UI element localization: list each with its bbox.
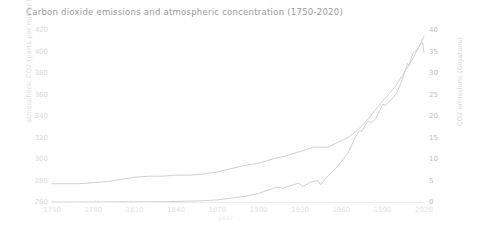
x-axis-tick: 1870 xyxy=(208,206,226,214)
line-co2-concentration xyxy=(52,36,424,183)
y-axis-left-tick: 340 xyxy=(35,112,48,120)
y-axis-left-tick: 280 xyxy=(35,177,48,185)
y-axis-left-tick: 380 xyxy=(35,69,48,77)
chart-title: Carbon dioxide emissions and atmospheric… xyxy=(26,7,343,17)
line-co2-emissions xyxy=(52,42,424,201)
chart-figure: Carbon dioxide emissions and atmospheric… xyxy=(0,0,480,238)
y-axis-right-tick: 20 xyxy=(429,112,438,120)
x-axis-tick: 1930 xyxy=(291,206,309,214)
y-axis-right-tick: 10 xyxy=(429,155,438,163)
x-axis-tick: 1900 xyxy=(250,206,268,214)
y-axis-left-title: atmospheric CO2 (parts per million) xyxy=(25,0,33,123)
y-axis-right-tick: 30 xyxy=(429,69,438,77)
x-axis-tick: 1990 xyxy=(374,206,392,214)
y-axis-right-title: CO2 emissions (Gigatons) xyxy=(456,37,464,126)
y-axis-right-tick: 5 xyxy=(429,177,433,185)
y-axis-right-tick: 0 xyxy=(429,198,433,206)
y-axis-left-tick: 420 xyxy=(35,26,48,34)
x-axis-tick: 1960 xyxy=(332,206,350,214)
x-axis-tick: 1810 xyxy=(126,206,144,214)
x-axis-tick: 1840 xyxy=(167,206,185,214)
x-axis-title: year xyxy=(218,214,233,222)
x-axis-tick: 1750 xyxy=(43,206,61,214)
x-axis-spine xyxy=(52,202,424,203)
y-axis-right-tick: 15 xyxy=(429,134,438,142)
y-axis-right-tick: 40 xyxy=(429,26,438,34)
y-axis-left-tick: 360 xyxy=(35,91,48,99)
y-axis-left-tick: 400 xyxy=(35,48,48,56)
x-axis-tick: 1780 xyxy=(84,206,102,214)
y-axis-left-tick: 300 xyxy=(35,155,48,163)
plot-lines xyxy=(52,30,424,202)
plot-area: 4204003803603403203002802604035302520151… xyxy=(52,30,424,202)
y-axis-left-tick: 320 xyxy=(35,134,48,142)
y-axis-left-tick: 260 xyxy=(35,198,48,206)
y-axis-right-tick: 25 xyxy=(429,91,438,99)
y-axis-right-tick: 35 xyxy=(429,48,438,56)
x-axis-tick: 2020 xyxy=(415,206,433,214)
